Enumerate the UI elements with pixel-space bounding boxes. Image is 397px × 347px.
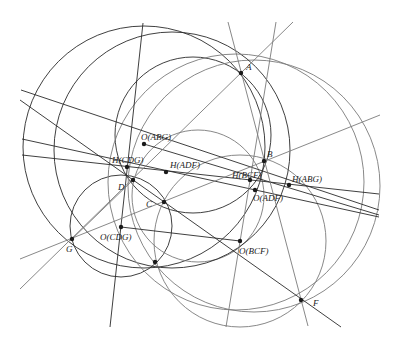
line-euler-3	[22, 139, 379, 217]
point-G	[70, 237, 74, 241]
label-HADF: H(ADF)	[169, 160, 200, 170]
label-OABG: O(ABG)	[141, 132, 171, 142]
label-F: F	[312, 298, 319, 308]
point-B	[262, 159, 266, 163]
point-A	[239, 71, 243, 75]
point-OADF	[253, 188, 257, 192]
label-HABG: H(ABG)	[291, 174, 322, 184]
line-d-f	[20, 100, 341, 327]
label-C: C	[146, 199, 153, 209]
geometry-diagram: ABCDFGO(ABG)H(CDG)H(ADF)H(BCF)H(ABG)O(AD…	[0, 0, 397, 347]
line-euler-1	[21, 90, 379, 210]
label-HBCF: H(BCF)	[231, 170, 262, 180]
circles-layer	[23, 26, 380, 327]
point-D	[131, 178, 135, 182]
label-B: B	[267, 149, 273, 159]
point-HABG	[287, 183, 291, 187]
point-HADF	[164, 170, 168, 174]
point-OABG	[142, 142, 146, 146]
point-OCDG	[119, 225, 123, 229]
point-C	[162, 200, 166, 204]
label-OBCF: O(BCF)	[239, 246, 269, 256]
point-F	[299, 298, 303, 302]
label-A: A	[245, 62, 252, 72]
point-OBCF	[238, 239, 242, 243]
circle-adf	[128, 60, 380, 312]
diagram-canvas: ABCDFGO(ABG)H(CDG)H(ADF)H(BCF)H(ABG)O(AD…	[0, 0, 397, 347]
label-HCDG: H(CDG)	[111, 155, 144, 165]
label-OCDG: O(CDG)	[100, 232, 132, 242]
point-X	[153, 260, 157, 264]
point-HCDG	[125, 165, 129, 169]
line-ocdg-obcf	[121, 227, 240, 241]
label-G: G	[66, 244, 73, 254]
label-OADF: O(ADF)	[253, 193, 283, 203]
label-D: D	[117, 182, 125, 192]
lines-layer	[20, 22, 380, 327]
labels-layer: ABCDFGO(ABG)H(CDG)H(ADF)H(BCF)H(ABG)O(AD…	[66, 62, 322, 308]
